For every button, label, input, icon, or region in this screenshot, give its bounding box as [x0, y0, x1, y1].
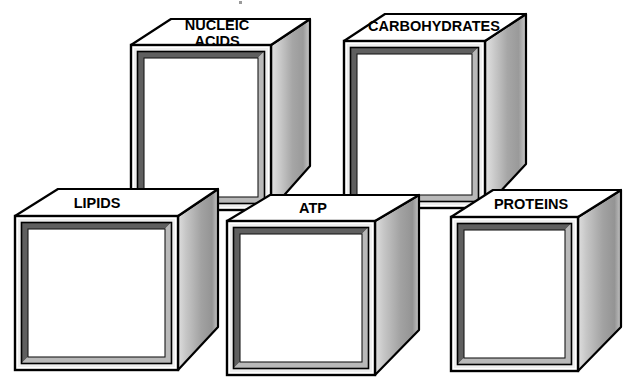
diagram-canvas: NUCLEIC ACIDS CARBOHYDRATES LIPI: [0, 0, 623, 387]
box-proteins-inner-panel: [464, 230, 565, 358]
box-atp[interactable]: ATP: [227, 195, 419, 375]
box-carbohydrates-label: CARBOHYDRATES: [368, 18, 500, 34]
box-nucleic-acids-label-line1: NUCLEIC: [185, 17, 250, 33]
box-lipids-side-face: [178, 189, 218, 370]
box-lipids-label: LIPIDS: [74, 195, 121, 211]
box-atp-inner-panel: [240, 234, 362, 362]
box-carbohydrates-side-face: [485, 14, 526, 208]
box-lipids[interactable]: LIPIDS: [15, 189, 218, 370]
box-nucleic-acids-side-face: [271, 19, 310, 210]
box-nucleic-acids-label-line2: ACIDS: [194, 33, 239, 49]
box-carbohydrates-inner-panel: [357, 54, 472, 195]
boxes-svg: NUCLEIC ACIDS CARBOHYDRATES LIPI: [0, 0, 623, 387]
box-lipids-inner-panel: [28, 229, 165, 357]
box-proteins[interactable]: PROTEINS: [451, 190, 621, 371]
box-carbohydrates[interactable]: CARBOHYDRATES: [344, 14, 526, 208]
box-proteins-side-face: [578, 190, 621, 371]
box-atp-label: ATP: [299, 200, 327, 216]
box-proteins-label: PROTEINS: [494, 196, 568, 212]
box-atp-side-face: [375, 195, 419, 375]
box-nucleic-acids-inner-panel: [144, 58, 258, 197]
box-nucleic-acids[interactable]: NUCLEIC ACIDS: [131, 17, 310, 210]
